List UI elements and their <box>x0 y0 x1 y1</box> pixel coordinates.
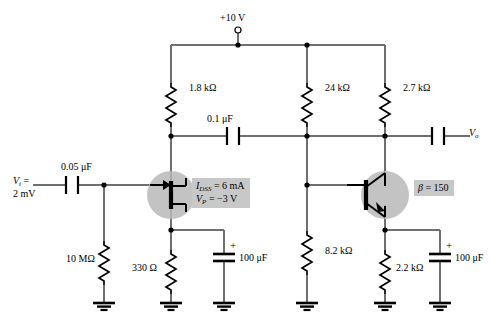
capacitor-c2-label: 0.1 μF <box>207 113 233 124</box>
resistor-re <box>380 250 390 294</box>
capacitor-c3-polarity-mark: + <box>230 239 236 251</box>
capacitor-c5-output-coupling <box>432 127 444 145</box>
jfet-q1 <box>147 171 195 219</box>
resistor-r1 <box>302 83 312 127</box>
resistor-rc-label: 2.7 kΩ <box>403 82 430 93</box>
resistor-re-label: 2.2 kΩ <box>396 262 423 273</box>
schematic-figure: +10 V 1.8 kΩ 24 kΩ 2.7 kΩ 0.1 μF 0.05 μF… <box>0 0 493 323</box>
capacitor-c1-label: 0.05 μF <box>61 161 92 172</box>
capacitor-c4-label: 100 μF <box>455 252 483 263</box>
resistor-rd1-label: 1.8 kΩ <box>189 82 216 93</box>
input-source-label: Vi = 2 mV <box>13 175 36 200</box>
input-label-eq: = <box>21 175 29 186</box>
resistor-rg <box>99 241 109 285</box>
output-label-sub: o <box>475 132 479 140</box>
ground-symbols <box>93 303 451 310</box>
output-label: Vo <box>469 127 479 140</box>
jfet-param-idss: IDSS = 6 mA <box>196 180 245 193</box>
supply-voltage-label: +10 V <box>220 12 245 23</box>
capacitor-c4-polarity-mark: + <box>446 239 452 251</box>
resistor-rs-label: 330 Ω <box>132 262 157 273</box>
input-label-value: 2 mV <box>13 188 36 199</box>
resistor-r1-label: 24 kΩ <box>325 82 350 93</box>
jfet-parameters-box: IDSS = 6 mA VP = −3 V <box>192 178 250 208</box>
capacitor-c2-interstage-coupling <box>227 127 239 145</box>
capacitor-c1-input-coupling <box>66 176 78 194</box>
bjt-parameters-box: β = 150 <box>414 180 454 196</box>
supply-terminal-node <box>235 27 241 33</box>
capacitor-c3-label: 100 μF <box>239 252 267 263</box>
resistor-rs <box>166 250 176 294</box>
jfet-param-vp: VP = −3 V <box>196 193 245 206</box>
bjt-param-beta: β = 150 <box>418 182 449 194</box>
resistor-rd1 <box>166 83 176 127</box>
resistor-rc <box>380 83 390 127</box>
bjt-q2 <box>347 171 409 219</box>
resistor-r2-label: 8.2 kΩ <box>325 245 352 256</box>
capacitor-c3-source-bypass <box>213 254 235 261</box>
resistor-rg-label: 10 MΩ <box>66 253 95 264</box>
capacitor-c4-emitter-bypass <box>429 254 451 261</box>
resistor-r2 <box>302 231 312 275</box>
